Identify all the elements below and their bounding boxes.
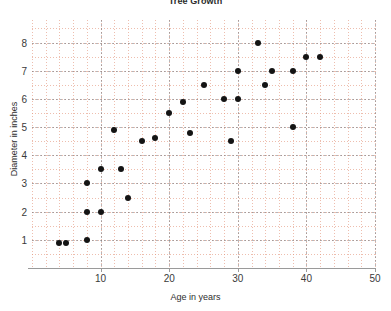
data-point <box>63 240 69 246</box>
y-axis-tick-label: 3 <box>21 178 27 189</box>
major-gridline-horizontal <box>32 99 375 100</box>
y-axis-tick-label: 6 <box>21 93 27 104</box>
minor-gridline-horizontal <box>32 141 375 142</box>
y-axis-tick-label: 5 <box>21 122 27 133</box>
x-axis-tick-label: 10 <box>95 273 106 284</box>
minor-gridline-horizontal <box>32 169 375 170</box>
data-point <box>255 40 261 46</box>
data-point <box>228 138 234 144</box>
data-point <box>125 195 131 201</box>
minor-gridline-horizontal <box>32 57 375 58</box>
data-point <box>84 237 90 243</box>
major-gridline-vertical <box>375 20 376 268</box>
x-axis-tick-label: 50 <box>369 273 380 284</box>
major-gridline-vertical <box>101 20 102 268</box>
data-point <box>290 68 296 74</box>
data-point <box>262 82 268 88</box>
data-point <box>187 130 193 136</box>
data-point <box>235 96 241 102</box>
major-gridline-horizontal <box>32 43 375 44</box>
data-point <box>111 127 117 133</box>
chart-title: Tree Growth <box>0 0 391 6</box>
data-point <box>201 82 207 88</box>
y-axis-title: Diameter in inches <box>9 69 19 209</box>
data-point <box>317 54 323 60</box>
x-axis-line <box>28 268 376 269</box>
major-gridline-vertical <box>238 20 239 268</box>
minor-gridline-horizontal <box>32 113 375 114</box>
data-point <box>269 68 275 74</box>
data-point <box>98 166 104 172</box>
y-axis-tick-label: 8 <box>21 37 27 48</box>
major-gridline-vertical <box>169 20 170 268</box>
y-axis-tick-label: 2 <box>21 206 27 217</box>
x-axis-title: Age in years <box>0 292 391 302</box>
x-axis-tick-label: 40 <box>301 273 312 284</box>
data-point <box>180 99 186 105</box>
y-axis-tick-label: 4 <box>21 150 27 161</box>
minor-gridline-horizontal <box>32 28 375 29</box>
data-point <box>84 180 90 186</box>
x-axis-tick-label: 30 <box>232 273 243 284</box>
data-point <box>290 124 296 130</box>
major-gridline-horizontal <box>32 71 375 72</box>
data-point <box>166 110 172 116</box>
data-point <box>98 209 104 215</box>
data-point <box>84 209 90 215</box>
x-axis-tick-mark <box>238 268 239 272</box>
data-point <box>139 138 145 144</box>
major-gridline-horizontal <box>32 127 375 128</box>
y-axis-tick-label: 1 <box>21 234 27 245</box>
major-gridline-horizontal <box>32 155 375 156</box>
x-axis-tick-label: 20 <box>164 273 175 284</box>
data-point <box>235 68 241 74</box>
minor-gridline-horizontal <box>32 254 375 255</box>
data-point <box>221 96 227 102</box>
x-axis-tick-mark <box>306 268 307 272</box>
data-point <box>56 240 62 246</box>
data-point <box>118 166 124 172</box>
plot-area <box>32 20 375 268</box>
minor-gridline-horizontal <box>32 226 375 227</box>
scatter-chart: Tree Growth 12345678 Diameter in inches … <box>0 0 391 311</box>
x-axis-tick-mark <box>375 268 376 272</box>
x-axis-tick-mark <box>101 268 102 272</box>
x-axis-tick-mark <box>169 268 170 272</box>
data-point <box>303 54 309 60</box>
minor-gridline-horizontal <box>32 198 375 199</box>
y-axis-tick-label: 7 <box>21 65 27 76</box>
